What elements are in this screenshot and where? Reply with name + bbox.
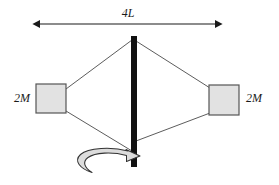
cord-bottom-right [136,113,210,141]
dimension-label-4L: 4L [122,6,135,20]
left-block-body [36,84,66,113]
diagram-canvas: 4L 2M 2M [0,0,279,185]
cord-top-left [66,40,132,89]
right-block-body [209,85,239,115]
cords-group [66,40,210,151]
cord-top-right [136,41,210,88]
rotation-arrow-shape [78,148,140,172]
left-block-group: 2M [14,84,66,113]
right-block-label-2M: 2M [246,91,263,105]
cord-bottom-left [66,111,132,151]
right-block-group: 2M [209,85,263,115]
physics-diagram-figure: 4L 2M 2M [0,0,279,185]
rotation-direction-arrow [78,148,140,172]
left-block-label-2M: 2M [14,91,31,105]
dimension-arrow-group: 4L [40,6,215,24]
rotation-axis-bar [131,36,137,167]
